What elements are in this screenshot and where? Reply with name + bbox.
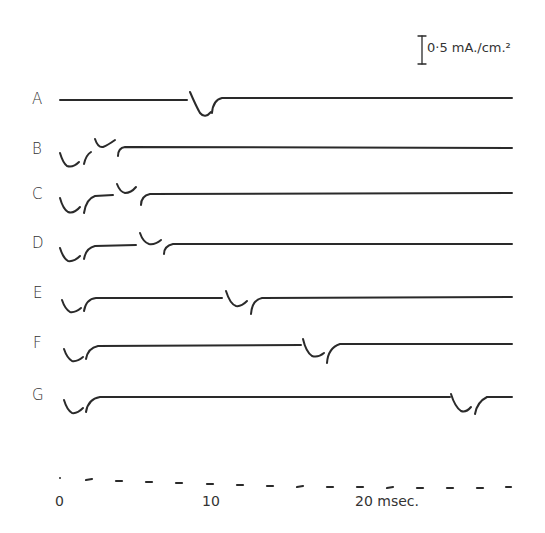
time-markers bbox=[59, 477, 511, 488]
time-tick-20: 20 msec. bbox=[355, 493, 419, 509]
trace-label-g: G bbox=[32, 386, 44, 404]
trace-label-c: C bbox=[32, 185, 42, 203]
trace-label-a: A bbox=[32, 90, 42, 108]
trace-b bbox=[60, 139, 512, 167]
current-traces-figure bbox=[0, 0, 545, 533]
trace-label-f: F bbox=[33, 334, 42, 352]
trace-a bbox=[60, 92, 512, 116]
scale-bar bbox=[418, 36, 426, 64]
trace-label-d: D bbox=[32, 234, 44, 252]
trace-c bbox=[60, 184, 512, 213]
time-tick-0: 0 bbox=[55, 493, 64, 509]
trace-d bbox=[60, 233, 512, 261]
trace-e bbox=[62, 291, 512, 314]
time-tick-10: 10 bbox=[202, 493, 220, 509]
trace-f bbox=[64, 339, 512, 363]
trace-label-e: E bbox=[33, 284, 42, 302]
scale-bar-label: 0·5 mA./cm.² bbox=[427, 40, 511, 55]
trace-g bbox=[64, 394, 512, 414]
trace-label-b: B bbox=[32, 140, 42, 158]
